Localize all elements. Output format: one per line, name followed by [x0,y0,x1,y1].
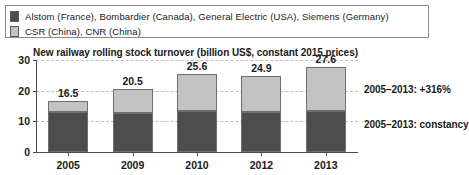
bar-segment-china[interactable] [48,101,88,112]
bar-segment-foreign[interactable] [113,113,153,152]
bar-segment-china[interactable] [177,74,217,112]
x-axis-tick [326,152,327,156]
y-axis-tick-label: 30 [18,54,30,67]
x-axis-tick [261,152,262,156]
plot-area: 16.520.525.624.927.6 [36,60,358,152]
annotation-constancy: 2005–2013: constancy [364,119,469,130]
bar-group[interactable]: 20.5 [113,89,153,152]
bar-group[interactable]: 24.9 [241,76,281,152]
bar-value-label: 27.6 [316,53,336,65]
bar-segment-china[interactable] [241,76,281,112]
x-axis-tick-label: 2013 [314,159,337,171]
chart-title: New railway rolling stock turnover (bill… [33,47,358,58]
bar-group[interactable]: 25.6 [177,74,217,153]
chart-legend: Alstom (France), Bombardier (Canada), Ge… [5,5,429,38]
y-axis-tick: 10 [33,121,37,122]
y-axis-tick: 30 [33,60,37,61]
bar-value-label: 20.5 [122,75,142,87]
x-axis-tick [68,152,69,156]
legend-label-foreign: Alstom (France), Bombardier (Canada), Ge… [25,11,389,22]
x-axis-tick-label: 2010 [185,159,208,171]
y-axis-tick: 20 [33,91,37,92]
legend-swatch-foreign [10,11,19,22]
bar-segment-foreign[interactable] [177,111,217,152]
bar-value-label: 24.9 [251,62,271,74]
bar-segment-foreign[interactable] [306,111,346,152]
y-axis-tick-label: 0 [24,146,30,159]
annotation-growth: 2005–2013: +316% [364,84,451,95]
bar-segment-china[interactable] [113,89,153,113]
x-axis-tick-label: 2005 [57,159,80,171]
x-axis-tick [133,152,134,156]
y-axis: 0102030 [36,60,37,152]
legend-item-china: CSR (China), CNR (China) [9,24,425,38]
legend-swatch-china [10,26,19,37]
bar-segment-foreign[interactable] [48,112,88,152]
bar-value-label: 25.6 [187,60,207,72]
bar-value-label: 16.5 [58,87,78,99]
y-axis-tick-label: 10 [18,115,30,128]
legend-item-foreign: Alstom (France), Bombardier (Canada), Ge… [9,9,425,23]
x-axis-tick-label: 2012 [250,159,273,171]
y-axis-tick-label: 20 [18,85,30,98]
bar-segment-china[interactable] [306,67,346,110]
x-axis-tick-label: 2009 [121,159,144,171]
bar-group[interactable]: 16.5 [48,101,88,152]
bar-group[interactable]: 27.6 [306,67,346,152]
bar-segment-foreign[interactable] [241,112,281,152]
legend-label-china: CSR (China), CNR (China) [25,26,141,37]
x-axis-tick [197,152,198,156]
